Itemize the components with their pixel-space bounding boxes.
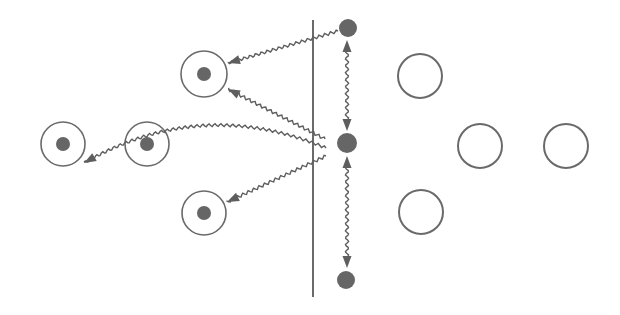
atom-core-dot-icon: [197, 206, 211, 220]
arrowhead-icon: [227, 193, 240, 202]
photon-emission-diagram: [0, 0, 620, 315]
atom-core-dot-icon: [56, 137, 70, 151]
emitter-middle-dot-icon: [337, 133, 357, 153]
atom-mid-left: [125, 122, 169, 166]
link-top-middle: [343, 40, 352, 131]
arrowhead-icon: [228, 89, 241, 98]
atom-right-middle-circle-icon: [458, 124, 502, 168]
arrowhead-down-icon: [343, 119, 352, 131]
atom-upper-left: [181, 51, 227, 97]
wavy-line: [345, 50, 348, 121]
arrowhead-down-icon: [343, 256, 352, 268]
wavy-photon-line: [228, 30, 338, 64]
arrowhead-icon: [228, 55, 241, 64]
photon-middle-to-lower-left: [226, 155, 326, 202]
atom-right-lower-circle-icon: [399, 190, 443, 234]
emitter-dots: [337, 19, 357, 289]
photon-middle-to-far-left: [84, 124, 326, 163]
atom-lower-left: [182, 191, 226, 235]
photon-top-to-upper-left: [228, 30, 338, 64]
atom-right-upper-circle-icon: [398, 54, 442, 98]
wavy-line: [345, 166, 348, 258]
atom-right-far-circle-icon: [544, 124, 588, 168]
arrowhead-up-icon: [343, 156, 352, 168]
excited-atoms: [41, 51, 227, 235]
emitter-bottom-dot-icon: [337, 271, 355, 289]
emitter-links: [343, 40, 352, 268]
emitter-top-dot-icon: [339, 19, 357, 37]
wavy-photon-line: [226, 155, 326, 202]
atom-core-dot-icon: [140, 137, 154, 151]
link-middle-bottom: [343, 156, 352, 268]
atom-far-left: [41, 122, 85, 166]
diagram-canvas: [0, 0, 620, 315]
atom-core-dot-icon: [197, 67, 211, 81]
arrowhead-icon: [84, 153, 97, 163]
arrowhead-up-icon: [343, 40, 352, 52]
wavy-photon-line: [84, 124, 326, 163]
ground-state-atoms: [398, 54, 588, 234]
